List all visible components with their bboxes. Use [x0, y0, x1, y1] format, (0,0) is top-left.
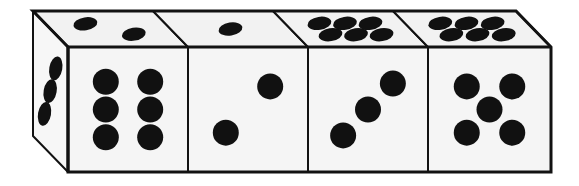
- die-1-front-pip-5: [93, 124, 119, 150]
- die-3-front-pip-2: [355, 97, 381, 123]
- die-4-front-pip-3: [477, 97, 503, 123]
- die-4-front-pip-2: [499, 73, 525, 99]
- die-2-front-pip-1: [213, 120, 239, 146]
- scene-root: [33, 11, 551, 172]
- die-1-front-face: [68, 47, 188, 172]
- die-1-front-pip-6: [137, 124, 163, 150]
- die-1-front-pip-2: [137, 69, 163, 95]
- die-1-front-pip-1: [93, 69, 119, 95]
- die-2-front-face: [188, 47, 308, 172]
- dice-illustration-canvas: [0, 0, 579, 186]
- die-4-front-pip-5: [499, 120, 525, 146]
- die-3-front-pip-3: [380, 71, 406, 97]
- die-3-front-pip-1: [330, 122, 356, 148]
- die-4-front-pip-1: [454, 73, 480, 99]
- die-1-front-pip-4: [137, 97, 163, 123]
- dice-scene-svg: [0, 0, 579, 186]
- die-1-front-pip-3: [93, 97, 119, 123]
- die-2-front-pip-2: [257, 73, 283, 99]
- die-4-front-pip-4: [454, 120, 480, 146]
